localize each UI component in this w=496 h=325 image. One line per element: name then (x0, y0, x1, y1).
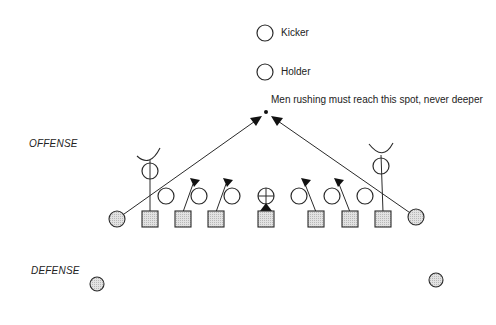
defense-square-4 (258, 211, 274, 227)
offense-guard-left-outer (191, 188, 207, 204)
holder-label: Holder (281, 66, 310, 77)
defense-end-left (109, 211, 125, 227)
flag-arrow-4 (334, 178, 344, 187)
offense-label: OFFENSE (29, 138, 78, 149)
offense-tackle-left (158, 188, 174, 204)
field-goal-defense-diagram (0, 0, 496, 325)
defense-square-2 (175, 211, 191, 227)
defense-label: DEFENSE (31, 265, 80, 276)
flag-arrow-3 (301, 178, 311, 187)
defense-square-5 (308, 211, 324, 227)
rush-path-4 (339, 184, 350, 212)
block-arc-left (137, 148, 160, 161)
defense-back-left (90, 277, 104, 291)
flag-arrow-1 (190, 178, 200, 187)
arrowhead-right (271, 116, 283, 126)
offense-guard-right-inner (291, 188, 307, 204)
defense-back-right (429, 273, 443, 287)
block-arc-right (369, 143, 393, 153)
offense-guard-right-outer (324, 188, 340, 204)
rush-line-left (117, 119, 258, 219)
arrowhead-left (250, 116, 262, 126)
defense-square-3 (208, 211, 224, 227)
defense-square-1 (142, 211, 158, 227)
defense-square-7 (375, 211, 391, 227)
kicker-circle (257, 25, 273, 41)
rush-spot-note: Men rushing must reach this spot, never … (271, 94, 483, 105)
holder-circle (257, 64, 273, 80)
kicker-label: Kicker (281, 27, 309, 38)
block-line-right (381, 155, 383, 212)
center-arrow (260, 203, 272, 211)
rush-spot-dot (264, 110, 268, 114)
flag-arrow-2 (223, 178, 233, 187)
defense-square-6 (342, 211, 358, 227)
offense-tackle-right (357, 188, 373, 204)
defense-end-right (408, 209, 424, 225)
offense-guard-left-inner (224, 188, 240, 204)
